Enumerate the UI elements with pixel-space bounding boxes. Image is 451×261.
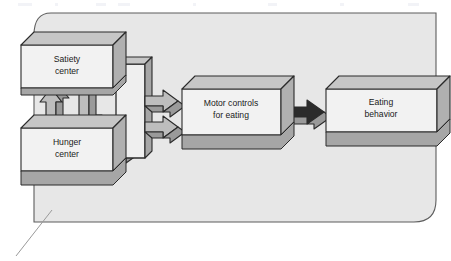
flow-diagram: Satiety center Hunger center Motor contr… [0, 0, 451, 261]
block-label-line1: Motor controls [204, 98, 258, 108]
figure-canvas: Satiety center Hunger center Motor contr… [0, 0, 451, 261]
block-eating-behavior[interactable]: Eating behavior [326, 76, 450, 146]
scan-artifacts [18, 3, 419, 6]
block-label-line2: center [55, 66, 79, 76]
block-label-line2: behavior [365, 109, 398, 119]
block-label-line1: Eating [369, 97, 394, 107]
block-satiety-center[interactable]: Satiety center [21, 32, 126, 95]
block-label-line2: for eating [213, 110, 249, 120]
block-label-line2: center [55, 149, 79, 159]
block-motor-controls[interactable]: Motor controls for eating [182, 76, 294, 149]
block-hunger-center[interactable]: Hunger center [21, 115, 126, 185]
block-label-line1: Satiety [54, 54, 81, 64]
block-label-line1: Hunger [53, 137, 81, 147]
